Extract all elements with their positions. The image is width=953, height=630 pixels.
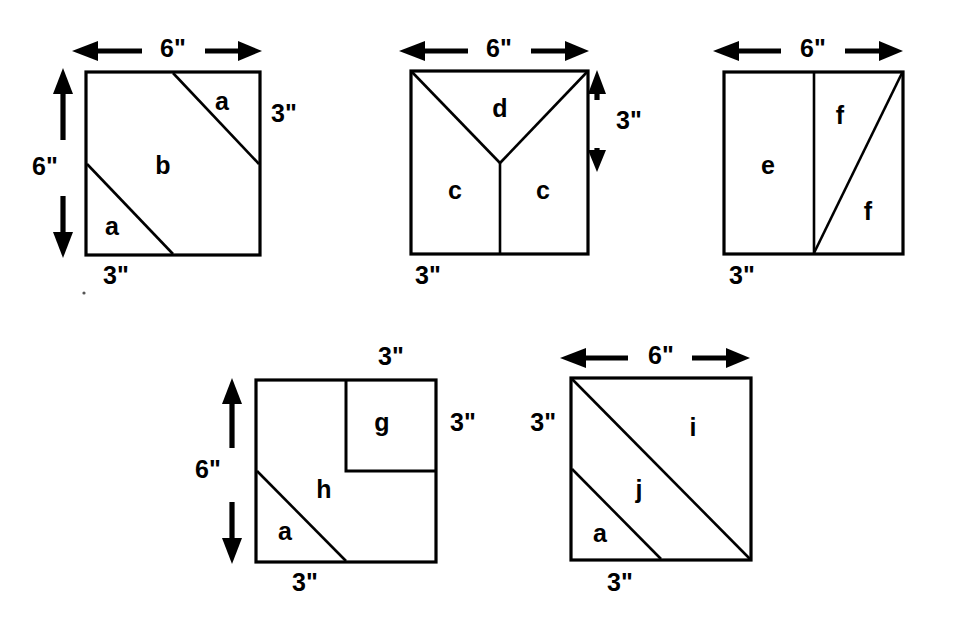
figure-5-bottom-dimension-label: 3": [607, 568, 633, 596]
figure-4-region-a: a: [278, 517, 293, 545]
figure-4-group: 3" 6" g h a 3" 3": [195, 342, 476, 596]
figure-4-bottom-dimension-label: 3": [292, 568, 318, 596]
figure-5-region-j: j: [635, 475, 643, 503]
figure-3-bottom-dimension-label: 3": [729, 261, 755, 289]
figure-1-region-a-top: a: [215, 87, 230, 115]
figure-1-region-a-bottom: a: [105, 212, 120, 240]
figure-2-region-c-left: c: [448, 176, 462, 204]
figure-3-group: 6" e f f 3": [713, 34, 903, 289]
figure-1-group: 6" 6" a b a 3" 3": [32, 34, 297, 295]
figure-4-left-dimension-arrow: [222, 378, 242, 564]
figure-2-region-d: d: [492, 94, 507, 122]
figure-4-region-h: h: [316, 475, 331, 503]
figure-2-top-dimension-label: 6": [486, 34, 512, 62]
figure-4-right-dimension-label: 3": [450, 408, 476, 436]
figure-1-bottom-dimension-label: 3": [103, 261, 129, 289]
print-speck: [82, 291, 85, 294]
figure-1-left-dimension-label: 6": [32, 152, 58, 180]
figure-3-region-f-bottom: f: [864, 197, 873, 225]
figure-2-right-dimension-arrow: [588, 70, 606, 172]
figure-4-region-g: g: [374, 408, 389, 436]
figure-1-top-dimension-label: 6": [160, 34, 186, 62]
figure-2-bottom-dimension-label: 3": [415, 261, 441, 289]
figure-5-top-dimension-label: 6": [648, 341, 674, 369]
figure-3-top-dimension-label: 6": [800, 34, 826, 62]
figure-5-region-i: i: [690, 413, 697, 441]
figure-3-region-e: e: [761, 151, 775, 179]
figure-5-region-a: a: [593, 519, 608, 547]
figure-3-region-f-top: f: [836, 101, 845, 129]
figure-2-right-dimension-label: 3": [616, 106, 642, 134]
figure-5-group: 6" i j a 3" 3": [530, 341, 751, 596]
diagram-sheet: 6" 6" a b a 3" 3": [0, 0, 953, 630]
figure-1-right-dimension-label: 3": [271, 99, 297, 127]
figure-1-region-b: b: [155, 151, 170, 179]
figure-5-left-dimension-label: 3": [530, 408, 556, 436]
figure-4-left-dimension-label: 6": [195, 455, 221, 483]
figure-4-top-dimension-label: 3": [378, 342, 404, 370]
figure-2-group: 6" d c c 3" 3": [399, 34, 642, 289]
figure-2-region-c-right: c: [536, 176, 550, 204]
